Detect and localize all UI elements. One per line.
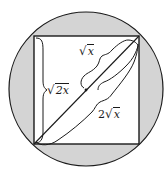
diagonal-length-label: 2 √x <box>98 108 120 120</box>
half-diagonal-label: √x <box>79 45 94 57</box>
geometry-figure <box>0 0 164 173</box>
radical: √x <box>105 108 120 120</box>
side-length-label: √2x <box>47 84 69 96</box>
radicand: x <box>113 107 120 121</box>
radical: √2x <box>47 84 69 96</box>
radical-sign: √ <box>79 44 87 58</box>
radicand: 2x <box>55 83 69 97</box>
radical: √x <box>79 45 94 57</box>
coefficient: 2 <box>98 108 105 121</box>
radical-sign: √ <box>105 107 113 121</box>
center-point <box>85 89 88 92</box>
radicand: x <box>87 44 94 58</box>
diagram-stage: √2x √x 2 √x <box>0 0 164 173</box>
radical-sign: √ <box>47 83 55 97</box>
